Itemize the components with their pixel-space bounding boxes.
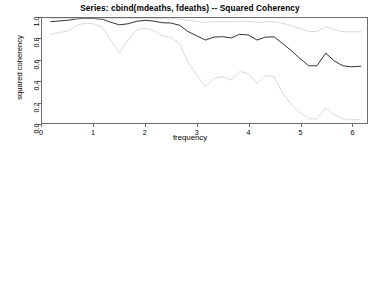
- x-tick-label: 1: [86, 128, 100, 137]
- x-tick-label: 3: [190, 128, 204, 137]
- panel-title-coherency: Series: cbind(mdeaths, fdeaths) -- Squar…: [0, 3, 380, 13]
- y-axis-label-coherency: squared coherency: [15, 23, 24, 113]
- series-estimate: [51, 18, 361, 66]
- y-tick-label: 0.4: [32, 81, 41, 103]
- y-tick-label: 1.0: [32, 17, 41, 39]
- y-tick-label: 0.0: [32, 124, 41, 146]
- coherency-curves: [42, 18, 367, 123]
- x-tick-label: 6: [345, 128, 359, 137]
- x-tick-mark: [249, 124, 250, 127]
- y-tick-label: 0.2: [32, 102, 41, 124]
- y-tick-label: 0.8: [32, 38, 41, 60]
- x-tick-mark: [352, 124, 353, 127]
- x-tick-mark: [145, 124, 146, 127]
- series-upper-confidence-bound: [51, 18, 361, 32]
- x-tick-label: 4: [242, 128, 256, 137]
- x-tick-mark: [93, 124, 94, 127]
- x-tick-mark: [301, 124, 302, 127]
- spectral-coherency-figure: Series: cbind(mdeaths, fdeaths) -- Squar…: [0, 0, 380, 294]
- x-tick-label: 5: [294, 128, 308, 137]
- plot-area-coherency: [41, 17, 368, 124]
- x-tick-mark: [197, 124, 198, 127]
- y-tick-label: 0.6: [32, 59, 41, 81]
- panel-squared-coherency: Series: cbind(mdeaths, fdeaths) -- Squar…: [0, 0, 380, 148]
- x-tick-mark: [41, 124, 42, 127]
- series-lower-confidence-bound: [51, 23, 361, 120]
- x-tick-label: 2: [138, 128, 152, 137]
- panel-phase-spectrum: Series: cbind(mdeaths, fdeaths) -- Phase…: [0, 146, 380, 294]
